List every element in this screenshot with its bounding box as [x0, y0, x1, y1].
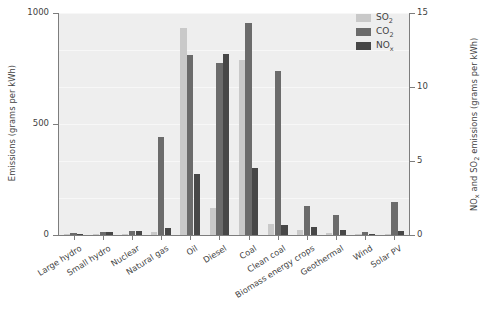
left-tick-500 — [53, 124, 58, 125]
left-ticklabel-500: 500 — [33, 118, 49, 128]
bar-nox-natural-gas — [165, 228, 171, 235]
right-tick-0 — [410, 235, 415, 236]
left-axis-label: Emissions (grams per kWh) — [7, 48, 17, 198]
legend-item-so2: SO2 — [356, 11, 394, 25]
legend-label-co2: CO2 — [376, 26, 394, 39]
right-ticklabel-10: 10 — [417, 81, 428, 91]
gridline — [59, 124, 409, 125]
bar-nox-oil — [194, 174, 200, 235]
bar-co2-clean-coal — [275, 71, 281, 235]
legend-label-nox: NOx — [376, 40, 394, 53]
bar-so2-diesel — [210, 208, 216, 235]
legend-swatch-so2 — [356, 14, 371, 22]
bottom-axis-spine — [59, 235, 410, 236]
right-axis-label: NOx and SO2 emissions (grams per kWh) — [469, 29, 482, 219]
right-ticklabel-5: 5 — [417, 155, 422, 165]
x-tick-coal — [249, 236, 250, 240]
bar-co2-oil — [187, 55, 193, 235]
right-ticklabel-0: 0 — [417, 229, 422, 239]
legend-label-so2: SO2 — [376, 12, 393, 25]
legend: SO2 CO2 NOx — [356, 11, 394, 53]
gridline — [59, 198, 409, 199]
x-tick-small-hydro — [103, 236, 104, 240]
x-tick-oil — [190, 236, 191, 240]
left-tick-0 — [53, 235, 58, 236]
bar-co2-natural-gas — [158, 137, 164, 235]
bar-so2-clean-coal — [268, 224, 274, 235]
left-ticklabel-0: 0 — [44, 229, 49, 239]
bar-nox-diesel — [223, 54, 229, 235]
right-axis-spine — [409, 13, 410, 236]
legend-item-nox: NOx — [356, 39, 394, 53]
gridline — [59, 87, 409, 88]
x-tick-geothermal — [336, 236, 337, 240]
left-axis-spine — [58, 13, 59, 236]
bar-so2-coal — [239, 60, 245, 235]
bar-co2-solar-pv — [391, 202, 397, 235]
bar-nox-clean-coal — [281, 225, 287, 235]
bar-co2-diesel — [216, 63, 222, 235]
bar-nox-coal — [252, 168, 258, 235]
x-tick-natural-gas — [161, 236, 162, 240]
x-tick-wind — [365, 236, 366, 240]
right-tick-10 — [410, 87, 415, 88]
x-tick-biomass-energy-crops — [307, 236, 308, 240]
x-tick-nuclear — [132, 236, 133, 240]
right-tick-5 — [410, 161, 415, 162]
bar-so2-oil — [180, 28, 186, 235]
emissions-bar-chart: Emissions (grams per kWh) NOx and SO2 em… — [0, 0, 500, 327]
bar-co2-biomass-energy-crops — [304, 206, 310, 235]
gridline — [59, 161, 409, 162]
x-tick-solar-pv — [394, 236, 395, 240]
x-tick-clean-coal — [278, 236, 279, 240]
bar-co2-geothermal — [333, 215, 339, 235]
left-tick-1000 — [53, 13, 58, 14]
bar-nox-biomass-energy-crops — [311, 227, 317, 235]
legend-item-co2: CO2 — [356, 25, 394, 39]
legend-swatch-nox — [356, 42, 371, 50]
right-tick-15 — [410, 13, 415, 14]
x-tick-large-hydro — [74, 236, 75, 240]
legend-swatch-co2 — [356, 28, 371, 36]
right-ticklabel-15: 15 — [417, 7, 428, 17]
left-ticklabel-1000: 1000 — [27, 7, 49, 17]
bar-co2-coal — [245, 23, 251, 235]
x-tick-diesel — [219, 236, 220, 240]
